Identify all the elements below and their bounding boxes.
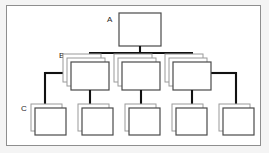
node-c-2-front	[82, 108, 113, 135]
node-b-3	[165, 54, 211, 90]
level-c-group: C	[21, 104, 254, 135]
node-c-1	[31, 104, 66, 135]
level-a-group: A	[107, 13, 161, 46]
hierarchy-diagram: A B	[0, 0, 269, 153]
node-c-5-front	[223, 108, 254, 135]
node-b-2-front	[122, 62, 160, 90]
node-c-4-front	[176, 108, 207, 135]
figure-root: A B	[0, 0, 269, 153]
node-c-2	[78, 104, 113, 135]
node-b-3-front	[173, 62, 211, 90]
node-c-1-front	[35, 108, 66, 135]
node-b-1	[63, 54, 109, 90]
label-c: C	[21, 104, 27, 113]
level-b-group: B	[59, 51, 211, 90]
node-b-1-front	[71, 62, 109, 90]
label-a: A	[107, 15, 113, 24]
node-c-4	[172, 104, 207, 135]
node-c-3-front	[129, 108, 160, 135]
node-a-1	[119, 13, 161, 46]
node-c-5	[219, 104, 254, 135]
node-c-3	[125, 104, 160, 135]
node-b-2	[114, 54, 160, 90]
